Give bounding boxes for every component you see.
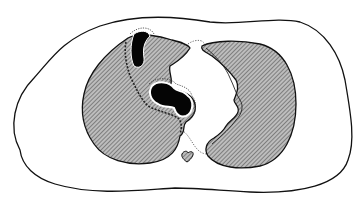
chest-cross-section-diagram: [0, 0, 356, 204]
diagram-canvas: [0, 0, 356, 204]
